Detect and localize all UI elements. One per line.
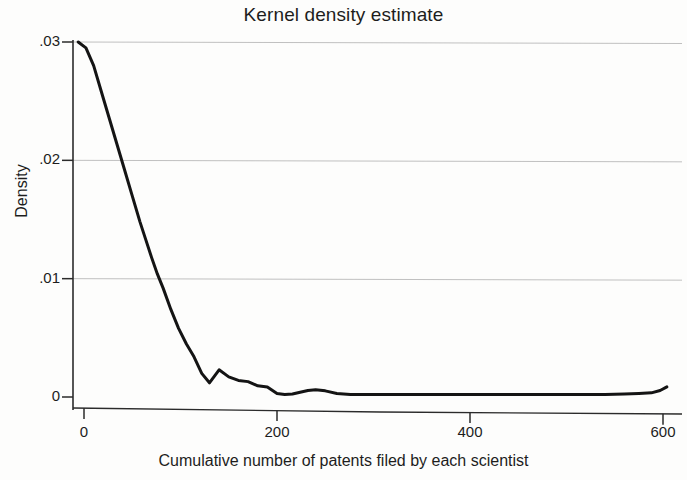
y-tick-label-1: .01 — [10, 269, 60, 286]
plot-area — [0, 0, 687, 480]
gridline-y-3 — [73, 42, 682, 44]
series-line-0 — [78, 42, 667, 394]
axes-group — [73, 40, 682, 414]
gridlines-group — [73, 42, 682, 280]
x-tick-label-0: 0 — [54, 423, 114, 440]
x-tick-label-2: 400 — [440, 423, 500, 440]
ticks-group — [62, 42, 663, 425]
y-tick-label-3: .03 — [10, 32, 60, 49]
kernel-density-figure: Kernel density estimate Density Cumulati… — [0, 0, 687, 480]
x-axis-spine — [73, 408, 682, 414]
gridline-y-2 — [73, 160, 682, 162]
gridline-y-1 — [73, 279, 682, 281]
x-tick-label-3: 600 — [633, 423, 687, 440]
data-series-group — [78, 42, 667, 394]
y-tick-label-0: 0 — [10, 387, 60, 404]
x-tick-label-1: 200 — [247, 423, 307, 440]
y-tick-label-2: .02 — [10, 150, 60, 167]
